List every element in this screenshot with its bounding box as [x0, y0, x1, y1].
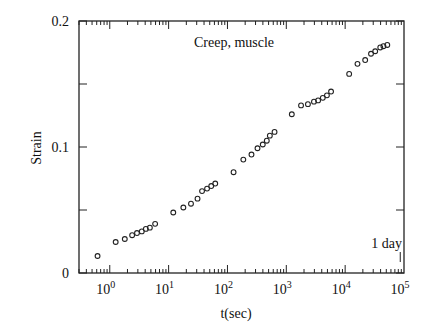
x-tick-label: 103 — [273, 279, 292, 297]
x-tick-label: 100 — [96, 279, 115, 297]
data-point — [299, 103, 304, 108]
data-point — [289, 112, 294, 117]
x-tick-label: 105 — [391, 279, 410, 297]
x-axis-ticks — [79, 21, 401, 273]
y-axis-ticks — [79, 21, 404, 273]
y-tick-label: 0.2 — [52, 14, 70, 29]
data-point — [113, 240, 118, 245]
x-tick-label: 101 — [155, 279, 174, 297]
x-tick-label: 102 — [214, 279, 233, 297]
data-points — [95, 43, 390, 259]
data-point — [95, 254, 100, 259]
data-point — [153, 221, 158, 226]
data-point — [373, 49, 378, 54]
data-point — [363, 58, 368, 63]
data-point — [329, 89, 334, 94]
x-tick-label: 104 — [332, 279, 351, 297]
data-point — [264, 138, 269, 143]
data-point — [213, 181, 218, 186]
data-point — [241, 157, 246, 162]
data-point — [195, 196, 200, 201]
x-axis-tick-labels: 100101102103104105 — [96, 279, 409, 297]
creep-chart: 100101102103104105 00.10.2 Creep, muscle… — [0, 0, 435, 335]
data-point — [267, 133, 272, 138]
plot-canvas: 100101102103104105 00.10.2 Creep, muscle… — [0, 0, 435, 335]
axes-box — [79, 21, 404, 273]
data-point — [249, 152, 254, 157]
chart-annotation: Creep, muscle — [194, 35, 274, 50]
data-point — [122, 237, 127, 242]
data-point — [306, 102, 311, 107]
data-point — [130, 233, 135, 238]
data-point — [255, 146, 260, 151]
data-point — [347, 72, 352, 77]
plot-frame — [79, 21, 404, 273]
y-axis-tick-labels: 00.10.2 — [52, 14, 70, 281]
x-axis-label: t(sec) — [220, 306, 251, 322]
data-point — [325, 93, 330, 98]
y-tick-label: 0 — [62, 266, 69, 281]
data-point — [189, 201, 194, 206]
data-point — [171, 210, 176, 215]
data-point — [181, 205, 186, 210]
y-tick-label: 0.1 — [52, 140, 70, 155]
data-point — [135, 231, 140, 236]
data-point — [200, 189, 205, 194]
one-day-label: 1 day — [371, 236, 402, 251]
data-point — [355, 61, 360, 66]
y-axis-label: Strain — [29, 131, 44, 164]
data-point — [231, 170, 236, 175]
data-point — [260, 142, 265, 147]
data-point — [272, 129, 277, 134]
